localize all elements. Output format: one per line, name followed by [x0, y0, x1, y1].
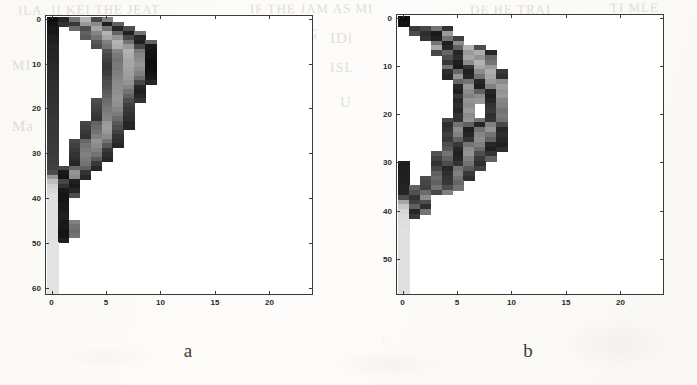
y-axis-tick-label: 0 — [23, 14, 41, 23]
y-axis-tick — [45, 198, 49, 199]
y-axis-tick-right — [309, 19, 313, 20]
x-axis-tick-top — [511, 14, 512, 18]
y-axis-tick-right — [660, 211, 664, 212]
heatmap-cell — [145, 80, 156, 85]
x-axis-tick-top — [457, 14, 458, 18]
y-axis-tick-right — [660, 18, 664, 19]
heatmap-cell — [123, 125, 134, 130]
figure-container: 051015200102030405060 a 0510152001020304… — [0, 0, 697, 385]
panel-a-caption: a — [184, 340, 192, 362]
y-axis-tick — [45, 64, 49, 65]
heatmap-cell — [91, 44, 102, 49]
y-axis-tick-label: 60 — [23, 284, 41, 293]
heatmap-cell — [69, 233, 80, 238]
x-axis-tick — [215, 291, 216, 295]
y-axis-tick — [396, 66, 400, 67]
heatmap-cell — [69, 26, 80, 31]
heatmap-cell — [58, 238, 69, 243]
x-axis-tick-label: 20 — [265, 298, 274, 307]
x-axis-tick — [403, 291, 404, 295]
heatmap-cell — [474, 98, 485, 103]
panel-b-plot-area[interactable] — [396, 14, 664, 295]
x-axis-tick-label: 10 — [507, 298, 516, 307]
x-axis-tick — [511, 291, 512, 295]
x-axis-tick-label: 5 — [104, 298, 108, 307]
x-axis-tick-top — [403, 14, 404, 18]
x-axis-tick-top — [566, 14, 567, 18]
y-axis-tick — [45, 288, 49, 289]
y-axis-tick — [45, 108, 49, 109]
y-axis-tick-right — [309, 243, 313, 244]
x-axis-tick-label: 15 — [210, 298, 219, 307]
panel-a-plot-area[interactable] — [45, 15, 313, 295]
x-axis-tick-label: 0 — [400, 298, 404, 307]
y-axis-tick-right — [309, 108, 313, 109]
heatmap-cell — [474, 166, 485, 171]
y-axis-tick — [396, 162, 400, 163]
x-axis-tick-label: 10 — [156, 298, 165, 307]
heatmap-cell — [69, 193, 80, 198]
x-axis-tick — [269, 291, 270, 295]
y-axis-tick-right — [660, 114, 664, 115]
x-axis-tick-top — [52, 15, 53, 19]
x-axis-tick-top — [269, 15, 270, 19]
y-axis-tick-right — [309, 198, 313, 199]
y-axis-tick-label: 50 — [23, 239, 41, 248]
y-axis-tick — [396, 18, 400, 19]
heatmap-cell — [91, 166, 102, 171]
y-axis-tick-label: 50 — [374, 254, 392, 263]
heatmap-cell — [102, 157, 113, 162]
heatmap-cell — [134, 98, 145, 103]
y-axis-tick — [45, 153, 49, 154]
y-axis-tick — [45, 19, 49, 20]
y-axis-tick-label: 30 — [374, 158, 392, 167]
x-axis-tick-top — [106, 15, 107, 19]
heatmap-cell — [420, 36, 431, 41]
y-axis-tick — [396, 114, 400, 115]
y-axis-tick — [396, 259, 400, 260]
y-axis-tick — [396, 211, 400, 212]
heatmap-cell — [398, 21, 409, 26]
y-axis-tick-label: 10 — [23, 59, 41, 68]
y-axis-tick-right — [660, 162, 664, 163]
y-axis-tick — [45, 243, 49, 244]
x-axis-tick-label: 20 — [616, 298, 625, 307]
heatmap-cell — [398, 291, 409, 295]
x-axis-tick — [160, 291, 161, 295]
heatmap-cell — [112, 143, 123, 148]
heatmap-cell — [409, 31, 420, 36]
panel-b-caption: b — [523, 340, 533, 362]
heatmap-cell — [442, 190, 453, 195]
x-axis-tick — [457, 291, 458, 295]
x-axis-tick — [106, 291, 107, 295]
y-axis-tick-right — [660, 259, 664, 260]
heatmap-cell — [485, 156, 496, 161]
x-axis-tick-label: 0 — [49, 298, 53, 307]
heatmap-cell — [463, 176, 474, 181]
heatmap-cell — [420, 209, 431, 214]
heatmap-cell — [496, 147, 507, 152]
y-axis-tick-label: 20 — [23, 104, 41, 113]
x-axis-tick — [52, 291, 53, 295]
heatmap-cell — [58, 22, 69, 27]
heatmap-cell — [442, 74, 453, 79]
x-axis-tick — [620, 291, 621, 295]
heatmap-cell — [453, 185, 464, 190]
x-axis-tick — [566, 291, 567, 295]
heatmap-cell — [80, 35, 91, 40]
y-axis-tick-right — [309, 288, 313, 289]
y-axis-tick-right — [309, 153, 313, 154]
x-axis-tick-top — [620, 14, 621, 18]
y-axis-tick-label: 40 — [374, 206, 392, 215]
heatmap-cell — [409, 214, 420, 219]
x-axis-tick-top — [215, 15, 216, 19]
x-axis-tick-top — [160, 15, 161, 19]
y-axis-tick-right — [660, 66, 664, 67]
heatmap-cell — [80, 175, 91, 180]
y-axis-tick-label: 30 — [23, 149, 41, 158]
y-axis-tick-right — [309, 64, 313, 65]
y-axis-tick-label: 10 — [374, 62, 392, 71]
heatmap-cell — [47, 292, 58, 296]
y-axis-tick-label: 20 — [374, 110, 392, 119]
y-axis-tick-label: 0 — [374, 13, 392, 22]
